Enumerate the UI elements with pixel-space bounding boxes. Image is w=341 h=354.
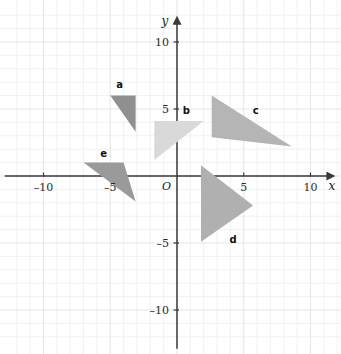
y-tick-label: –5 [157, 237, 170, 250]
y-tick-label: 5 [162, 103, 169, 116]
shape-triangle-c [212, 96, 292, 147]
shape-triangle-b [154, 121, 203, 160]
origin-label: O [162, 180, 171, 193]
axis-titles: Oxy [161, 14, 336, 193]
shape-label-b: b [183, 105, 190, 116]
x-tick-label: 5 [240, 181, 247, 194]
y-axis-label: y [161, 14, 169, 28]
x-tick-label: –5 [104, 181, 117, 194]
shape-label-a: a [116, 79, 123, 90]
shape-label-c: c [253, 105, 259, 116]
x-axis-label: x [328, 179, 335, 193]
y-tick-label: 10 [155, 36, 169, 49]
plot-svg: –10–5510105–5–10 abcde Oxy [0, 0, 341, 354]
shapes-group [84, 96, 292, 242]
shape-label-e: e [100, 148, 107, 159]
x-tick-label: 10 [304, 181, 318, 194]
shape-triangle-a [110, 96, 135, 132]
grid-minor [0, 0, 341, 354]
y-tick-label: –10 [150, 304, 170, 317]
x-tick-label: –10 [34, 181, 54, 194]
grid-major [0, 0, 341, 354]
shape-label-d: d [229, 234, 236, 245]
coordinate-plane-figure: –10–5510105–5–10 abcde Oxy [0, 0, 341, 354]
